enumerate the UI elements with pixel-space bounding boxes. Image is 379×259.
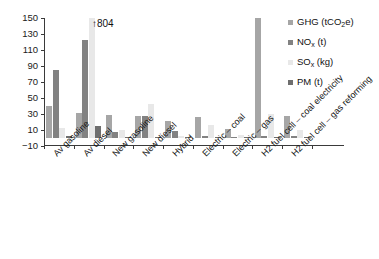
y-axis-tick-label: 30: [27, 109, 38, 119]
bar: [291, 136, 297, 138]
bar: [231, 137, 237, 138]
y-axis-tick-label: 110: [23, 45, 38, 55]
bar: [195, 117, 201, 138]
x-axis-tick-mark: [163, 145, 164, 149]
x-axis-tick-mark: [252, 145, 253, 149]
bar: [46, 106, 52, 138]
legend-label: PM (t): [297, 77, 323, 87]
x-axis-tick-mark: [193, 145, 194, 149]
bar-group: [106, 18, 132, 146]
x-axis-tick-mark: [282, 145, 283, 149]
legend-label: SOx (kg): [297, 57, 333, 67]
y-axis-tick-label: 130: [22, 29, 38, 39]
legend-item: PM (t): [288, 77, 379, 88]
y-axis-tick-label: 10: [27, 125, 38, 135]
legend-label: NOx (t): [297, 37, 326, 47]
chart-legend: GHG (tCO2e)NOx (t)SOx (kg)PM (t): [288, 17, 379, 97]
y-axis-tick-label: 90: [27, 61, 38, 71]
x-axis-tick-mark: [44, 145, 45, 149]
bar: [208, 125, 214, 138]
legend-swatch-icon: [288, 80, 293, 85]
bar: [202, 136, 208, 138]
x-axis-tick-mark: [223, 145, 224, 149]
legend-label: GHG (tCO2e): [297, 17, 354, 27]
bar-group: [195, 18, 221, 146]
y-axis-tick-label: 70: [27, 77, 38, 87]
legend-item: SOx (kg): [288, 57, 379, 68]
x-axis-tick-mark: [312, 145, 313, 149]
legend-swatch-icon: [288, 60, 293, 65]
x-axis-tick-mark: [74, 145, 75, 149]
y-axis-tick-label: 50: [27, 93, 38, 103]
bar: [53, 70, 59, 138]
legend-swatch-icon: [288, 20, 293, 25]
y-axis-tick-label: 150: [22, 13, 38, 23]
bar-chart: −101030507090110130150 Av gasolineAv die…: [0, 0, 379, 259]
y-axis-tick-label: −10: [22, 141, 38, 151]
legend-swatch-icon: [288, 40, 293, 45]
bar-group: [46, 18, 72, 146]
legend-item: NOx (t): [288, 37, 379, 48]
bar: [261, 136, 267, 138]
bar: [89, 18, 95, 138]
x-axis-tick-mark: [133, 145, 134, 149]
clipped-bar-annotation: ↑804: [92, 19, 114, 29]
legend-item: GHG (tCO2e): [288, 17, 379, 28]
x-axis-tick-mark: [104, 145, 105, 149]
